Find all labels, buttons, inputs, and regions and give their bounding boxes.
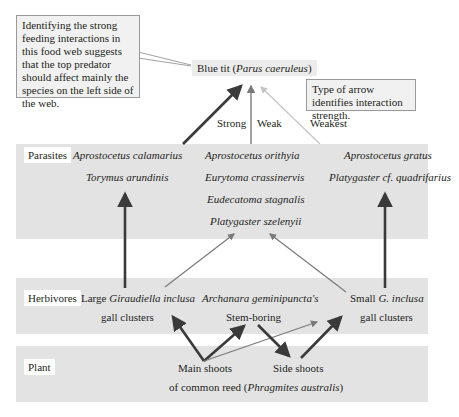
right-callout: Type of arrow identifies interaction str…	[306, 79, 416, 111]
parasite-left-2: Torymus arundinis	[86, 170, 168, 184]
parasite-right-1: Aprostocetus gratus	[344, 148, 432, 162]
weak-label: Weak	[257, 116, 282, 130]
plant-main-shoots: Main shoots	[178, 361, 232, 375]
parasite-right-2: Platygaster cf. quadrifarius	[329, 170, 451, 184]
blue-tit-node: Blue tit (Parus caeruleus)	[192, 60, 317, 76]
plant-species: of common reed (Phragmites australis)	[169, 380, 343, 394]
plant-label: Plant	[24, 359, 55, 375]
herbivores-label: Herbivores	[24, 290, 81, 306]
parasite-mid-2: Eurytoma crassinervis	[205, 170, 304, 184]
parasite-left-1: Aprostocetus calamarius	[73, 148, 182, 162]
plant-side-shoots: Side shoots	[273, 361, 323, 375]
parasite-mid-3: Eudecatoma stagnalis	[207, 192, 304, 206]
parasites-label: Parasites	[24, 147, 71, 163]
herbivore-large-gall: Large Giraudiella inclusa	[81, 291, 195, 305]
herbivore-large-gall-line2: gall clusters	[101, 310, 154, 324]
weakest-label: Weakest	[310, 116, 347, 130]
parasite-mid-1: Aprostocetus orithyia	[205, 148, 300, 162]
herbivore-stem-borer: Archanara geminipuncta's	[202, 291, 319, 305]
herbivore-stem-borer-line2: Stem-boring	[226, 310, 281, 324]
herbivore-small-gall-line2: gall clusters	[360, 310, 413, 324]
left-callout: Identifying the strong feeding interacti…	[16, 15, 140, 98]
strong-label: Strong	[217, 116, 246, 130]
herbivore-small-gall: Small G. inclusa	[350, 291, 424, 305]
parasite-mid-4: Platygaster szelenyii	[210, 214, 301, 228]
